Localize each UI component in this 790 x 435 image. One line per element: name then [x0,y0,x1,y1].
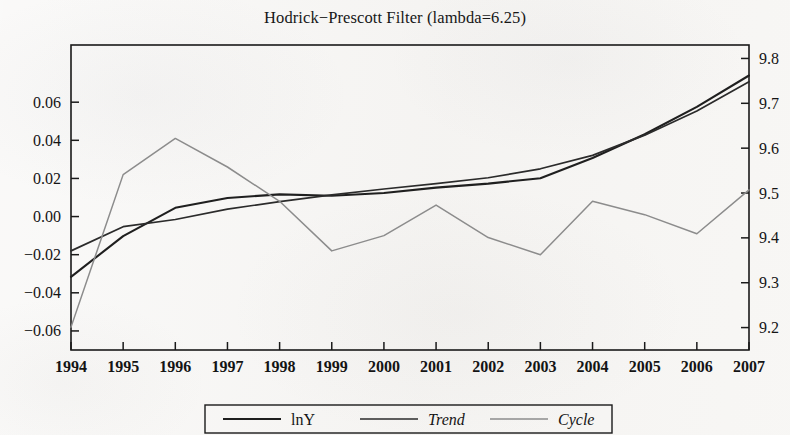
x-axis-tick-label: 2002 [472,358,504,375]
right-axis-tick-label: 9.6 [759,140,779,157]
left-axis-tick-label: −0.02 [24,246,61,263]
series-line-lny [71,76,749,277]
left-axis-tick-label: 0.06 [33,94,61,111]
left-axis-tick-label: −0.06 [24,322,61,339]
x-axis-tick-label: 2001 [420,358,452,375]
x-axis-tick-label: 1998 [264,358,296,375]
x-axis-tick-label: 1999 [316,358,348,375]
left-axis-tick-label: −0.04 [24,284,61,301]
x-axis-tick-label: 1997 [211,358,243,375]
legend-label-lny: lnY [291,411,315,428]
legend-label-cycle: Cycle [558,411,594,429]
x-axis-tick-label: 1996 [159,358,191,375]
chart-legend: lnYTrendCycle [205,405,612,433]
x-axis-tick-label: 2005 [629,358,661,375]
chart-figure: Hodrick−Prescott Filter (lambda=6.25) 0.… [0,0,790,435]
legend-label-trend: Trend [428,411,466,428]
series-line-trend [71,82,749,251]
right-axis-tick-label: 9.2 [759,319,779,336]
right-axis-tick-label: 9.7 [759,95,779,112]
x-axis-tick-label: 2004 [577,358,609,375]
data-series-lines [71,76,749,328]
left-axis-tick-label: 0.02 [33,170,61,187]
right-axis-tick-label: 9.4 [759,229,779,246]
left-axis-tick-label: 0.04 [33,132,61,149]
right-axis-tick-label: 9.3 [759,274,779,291]
x-axis-tick-label: 2006 [681,358,713,375]
left-axis-tick-labels: 0.060.040.020.00−0.02−0.04−0.06 [24,94,61,340]
right-axis-tick-label: 9.5 [759,185,779,202]
axis-tick-marks [71,58,749,350]
plot-frame [71,45,749,350]
plot-area-svg: 0.060.040.020.00−0.02−0.04−0.06 9.89.79.… [0,0,790,435]
x-axis-tick-label: 1994 [55,358,87,375]
right-axis-tick-label: 9.8 [759,50,779,67]
x-axis-tick-label: 2000 [368,358,400,375]
x-axis-tick-label: 2007 [733,358,765,375]
left-axis-tick-label: 0.00 [33,208,61,225]
x-axis-tick-label: 1995 [107,358,139,375]
x-axis-tick-labels: 1994199519961997199819992000200120022003… [55,358,765,375]
series-line-cycle [71,138,749,327]
right-axis-tick-labels: 9.89.79.69.59.49.39.2 [759,50,779,336]
x-axis-tick-label: 2003 [524,358,556,375]
